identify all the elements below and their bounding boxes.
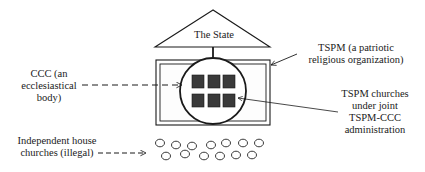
house-church-circle	[172, 141, 181, 149]
tspm-churches-label-line: administration	[330, 124, 420, 136]
house-church-circle	[255, 139, 264, 147]
ccc-circle	[180, 58, 246, 124]
church-square	[223, 75, 235, 88]
ccc-label-line: ecclesiastical	[14, 80, 84, 92]
house-church-circle	[162, 152, 171, 160]
house-church-circles	[156, 139, 264, 160]
church-square	[208, 94, 220, 107]
house-church-circle	[239, 139, 248, 147]
ccc-label-line: body)	[14, 92, 84, 104]
state-label-text: The State	[188, 29, 240, 41]
state-label: The State	[188, 29, 240, 41]
house-churches-label: Independent house churches (illegal)	[10, 135, 104, 159]
tspm-label-line: TSPM (a patriotic	[296, 42, 416, 54]
house-church-circle	[207, 141, 216, 149]
church-square	[208, 75, 220, 88]
tspm-label-line: religious organization)	[296, 54, 416, 66]
church-square	[192, 94, 204, 107]
house-churches-label-line: Independent house	[10, 135, 104, 147]
church-square	[192, 75, 204, 88]
house-church-circle	[216, 152, 225, 160]
tspm-churches-label-line: TSPM-CCC	[330, 112, 420, 124]
tspm-churches-label-line: TSPM churches	[330, 88, 420, 100]
house-church-circle	[181, 150, 190, 158]
ccc-label: CCC (an ecclesiastical body)	[14, 68, 84, 104]
house-church-circle	[248, 151, 257, 159]
tspm-churches-label-line: under joint	[330, 100, 420, 112]
tspm-label: TSPM (a patriotic religious organization…	[296, 42, 416, 66]
house-church-circle	[188, 142, 197, 150]
church-square	[223, 94, 235, 107]
house-church-circle	[200, 152, 209, 160]
tspm-arrow	[271, 54, 297, 65]
ccc-label-line: CCC (an	[14, 68, 84, 80]
house-church-circle	[232, 151, 241, 159]
house-church-circle	[222, 139, 231, 147]
tspm-churches-label: TSPM churches under joint TSPM-CCC admin…	[330, 88, 420, 136]
house-church-circle	[156, 139, 165, 147]
house-churches-label-line: churches (illegal)	[10, 147, 104, 159]
